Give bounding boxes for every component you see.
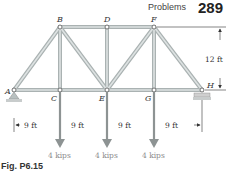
svg-text:G: G: [145, 94, 152, 103]
svg-text:9 ft: 9 ft: [118, 121, 131, 130]
roller-support-H: [193, 93, 211, 100]
load-label-G: 4 kips: [142, 151, 165, 160]
svg-text:B: B: [56, 15, 63, 24]
truss-diagram: 12 ft B D F A C E G H 9 ft 9 ft 9 ft 9 f…: [0, 0, 230, 171]
svg-text:H: H: [206, 81, 215, 90]
svg-text:9 ft: 9 ft: [24, 121, 37, 130]
height-dimension: 12 ft: [205, 55, 223, 64]
load-label-E: 4 kips: [95, 151, 118, 160]
load-arrows: [60, 92, 154, 140]
truss-members: [14, 27, 202, 90]
svg-text:9 ft: 9 ft: [165, 121, 178, 130]
svg-text:C: C: [51, 94, 57, 103]
svg-text:F: F: [150, 15, 157, 24]
svg-text:D: D: [103, 15, 111, 24]
svg-text:E: E: [98, 94, 105, 103]
figure-caption: Fig. P6.15: [1, 161, 43, 171]
load-label-C: 4 kips: [48, 151, 71, 160]
svg-text:9 ft: 9 ft: [71, 121, 84, 130]
svg-text:A: A: [4, 87, 11, 96]
